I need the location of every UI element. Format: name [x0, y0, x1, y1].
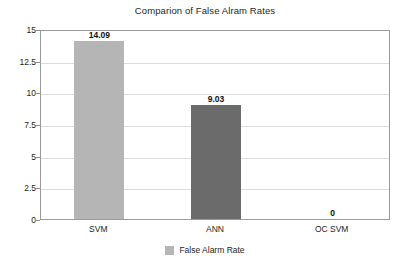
chart-legend: False Alarm Rate	[0, 245, 410, 255]
x-axis: SVMANNOC SVM	[40, 224, 390, 240]
y-axis: 02.557.51012.515	[0, 30, 36, 220]
bar-value-label: 0	[330, 208, 335, 218]
x-tick-label: OC SVM	[315, 224, 349, 234]
y-tick-mark	[36, 220, 40, 221]
chart-figure: Comparion of False Alram Rates 02.557.51…	[0, 0, 410, 272]
legend-item-false-alarm-rate: False Alarm Rate	[165, 245, 244, 255]
y-tick-label: 15	[0, 25, 36, 35]
y-tick-label: 7.5	[0, 120, 36, 130]
y-tick-label: 2.5	[0, 183, 36, 193]
y-tick-label: 0	[0, 215, 36, 225]
x-tick-label: ANN	[206, 224, 224, 234]
legend-item-label: False Alarm Rate	[179, 245, 244, 255]
x-tick-label: SVM	[89, 224, 107, 234]
bar-ann[interactable]	[191, 105, 241, 219]
y-tick-label: 12.5	[0, 57, 36, 67]
bar-value-label: 14.09	[89, 30, 110, 40]
legend-swatch-icon	[165, 246, 174, 255]
bar-svm[interactable]	[74, 41, 124, 219]
y-tick-label: 5	[0, 152, 36, 162]
plot-area: 14.099.030	[40, 30, 390, 220]
chart-title: Comparion of False Alram Rates	[0, 5, 410, 16]
bar-value-label: 9.03	[208, 94, 225, 104]
y-tick-label: 10	[0, 88, 36, 98]
